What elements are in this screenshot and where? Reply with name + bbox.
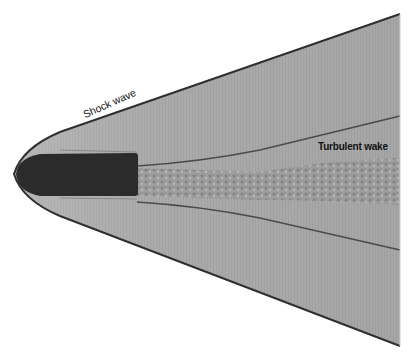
turbulent-wake-label: Turbulent wake xyxy=(318,141,388,152)
bullet xyxy=(16,153,138,196)
flow-field-graphic xyxy=(0,0,413,363)
schlieren-photo: Shock wave Turbulent wake xyxy=(0,0,413,363)
